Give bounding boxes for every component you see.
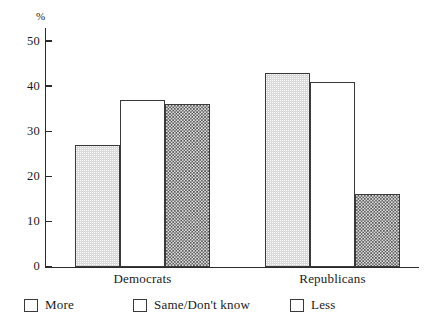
legend-swatch-icon [133, 299, 147, 312]
y-axis-line [45, 28, 46, 268]
legend-swatch-icon [290, 299, 304, 312]
y-axis-tick-label: 0 [6, 260, 40, 272]
y-axis-tick-label: 20 [6, 170, 40, 182]
bar-republicans-same-don-t-know[interactable] [310, 82, 355, 267]
y-axis-tick [45, 221, 52, 222]
y-axis-tick-label: 40 [6, 80, 40, 92]
bar-democrats-less[interactable] [165, 104, 210, 266]
y-axis-unit-label: % [36, 10, 45, 22]
legend-item-less[interactable]: Less [290, 298, 336, 312]
bar-republicans-less[interactable] [355, 194, 400, 266]
y-axis-tick [45, 131, 52, 132]
chart-page: % 01020304050 DemocratsRepublicans MoreS… [0, 0, 429, 327]
legend-item-same-don-t-know[interactable]: Same/Don't know [133, 298, 250, 312]
x-axis-line [45, 267, 419, 268]
legend-item-more[interactable]: More [24, 298, 74, 312]
bar-democrats-more[interactable] [75, 145, 120, 267]
y-axis-tick [45, 40, 52, 41]
y-axis-tick [45, 85, 52, 86]
y-axis-tick-label: 50 [6, 35, 40, 47]
legend-swatch-icon [24, 299, 38, 312]
x-axis-label-republicans: Republicans [243, 271, 422, 286]
y-axis-tick-label: 30 [6, 125, 40, 137]
legend-label: More [45, 298, 74, 312]
legend-label: Less [311, 298, 336, 312]
y-axis-tick-label: 10 [6, 215, 40, 227]
bar-republicans-more[interactable] [265, 73, 310, 267]
legend-label: Same/Don't know [154, 298, 250, 312]
bar-democrats-same-don-t-know[interactable] [120, 100, 165, 267]
plot-area: % 01020304050 DemocratsRepublicans [0, 0, 429, 280]
x-axis-label-democrats: Democrats [53, 271, 232, 286]
chart-legend: MoreSame/Don't knowLess [0, 296, 429, 322]
y-axis-tick [45, 266, 52, 267]
y-axis-tick [45, 176, 52, 177]
